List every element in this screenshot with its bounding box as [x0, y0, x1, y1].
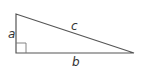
leg-b-label: b	[72, 55, 80, 69]
leg-a-label: a	[8, 27, 15, 41]
right-angle-marker	[16, 43, 26, 53]
right-triangle-diagram: a c b	[0, 0, 142, 71]
hypotenuse-c-label: c	[71, 19, 78, 33]
